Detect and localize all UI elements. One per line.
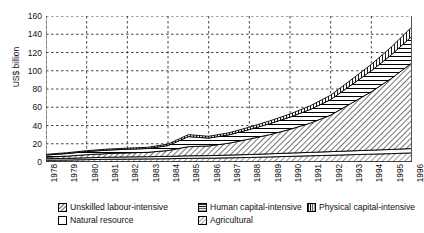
x-tick-label: 1993	[355, 164, 364, 182]
legend-row-2: Natural resource Agricultural	[58, 216, 418, 228]
x-tick-label: 1979	[70, 164, 79, 182]
chart-legend: Unskilled labour-intensive Human capital…	[58, 203, 418, 231]
x-tick-label: 1990	[294, 164, 303, 182]
x-tick-label: 1987	[233, 164, 242, 182]
x-tick-label: 1984	[172, 164, 181, 182]
x-tick-label: 1981	[111, 164, 120, 182]
y-tick-label: 40	[16, 121, 42, 131]
y-tick-label: 160	[16, 11, 42, 21]
swatch-vertical-lines-icon	[307, 203, 316, 212]
y-tick-label: 140	[16, 29, 42, 39]
swatch-blank-icon	[58, 216, 67, 225]
x-tick-label: 1992	[335, 164, 344, 182]
x-tick-label: 1989	[274, 164, 283, 182]
legend-label: Agricultural	[210, 216, 253, 225]
legend-label: Physical capital-intensive	[319, 203, 415, 212]
y-tick-label: 20	[16, 139, 42, 149]
x-tick-label: 1995	[396, 164, 405, 182]
swatch-horizontal-lines-icon	[198, 203, 207, 212]
x-axis-tick-labels: 1978197919801981198219831984198519861987…	[46, 164, 412, 200]
legend-item-natural-resource[interactable]: Natural resource	[58, 216, 134, 225]
x-tick-label: 1980	[91, 164, 100, 182]
legend-item-unskilled-labour-intensive[interactable]: Unskilled labour-intensive	[58, 203, 168, 212]
swatch-light-dots-icon	[198, 216, 207, 225]
y-tick-label: 60	[16, 102, 42, 112]
x-tick-label: 1986	[213, 164, 222, 182]
y-tick-label: 0	[16, 157, 42, 167]
legend-item-agricultural[interactable]: Agricultural	[198, 216, 253, 225]
legend-row-1: Unskilled labour-intensive Human capital…	[58, 203, 418, 215]
swatch-diagonal-dense-icon	[58, 203, 67, 212]
stacked-area-svg	[46, 16, 412, 162]
chart-figure: US$ billion 020406080100120140160 197819…	[0, 0, 424, 233]
x-tick-label: 1982	[131, 164, 140, 182]
legend-label: Unskilled labour-intensive	[70, 203, 168, 212]
x-tick-label: 1978	[50, 164, 59, 182]
y-axis-tick-labels: 020406080100120140160	[12, 16, 42, 162]
y-tick-label: 120	[16, 48, 42, 58]
legend-item-human-capital-intensive[interactable]: Human capital-intensive	[198, 203, 302, 212]
x-tick-label: 1985	[192, 164, 201, 182]
x-tick-label: 1996	[416, 164, 424, 182]
legend-item-physical-capital-intensive[interactable]: Physical capital-intensive	[307, 203, 415, 212]
y-tick-label: 100	[16, 66, 42, 76]
legend-label: Human capital-intensive	[210, 203, 302, 212]
plot-area	[46, 16, 412, 162]
x-tick-label: 1991	[314, 164, 323, 182]
x-tick-label: 1988	[253, 164, 262, 182]
x-tick-label: 1983	[152, 164, 161, 182]
x-tick-label: 1994	[375, 164, 384, 182]
y-tick-label: 80	[16, 84, 42, 94]
legend-label: Natural resource	[70, 216, 134, 225]
